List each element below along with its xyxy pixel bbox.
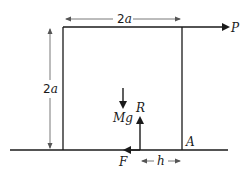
- diagram-canvas: P 2a 2a Mg R F A h: [0, 0, 250, 173]
- friction-label: F: [118, 155, 128, 169]
- corner-a-label: A: [185, 135, 195, 149]
- offset-dimension: h: [142, 154, 180, 168]
- svg-text:2a: 2a: [43, 82, 58, 96]
- weight-label: Mg: [112, 111, 133, 125]
- width-dimension: 2a: [66, 12, 180, 26]
- reaction-label: R: [135, 101, 145, 115]
- height-label-num: 2: [43, 82, 51, 96]
- offset-label: h: [157, 154, 165, 168]
- height-label-var: a: [51, 82, 58, 96]
- height-dimension: 2a: [43, 29, 58, 148]
- force-p-label: P: [230, 21, 240, 35]
- svg-text:2a: 2a: [117, 12, 132, 26]
- width-label-var: a: [125, 12, 132, 26]
- width-label-num: 2: [117, 12, 125, 26]
